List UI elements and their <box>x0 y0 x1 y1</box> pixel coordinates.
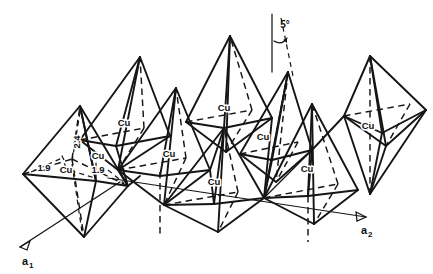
cu-label-2: Cu <box>118 117 131 128</box>
cu-label-1: Cu <box>92 150 105 161</box>
cu-label-4: Cu <box>218 102 231 113</box>
oct5-front-a <box>164 204 214 205</box>
octahedra-chain-svg: Cu Cu Cu Cu Cu Cu Cu Cu 1.9 1.9 2.4 Cu 5… <box>0 0 433 274</box>
bond-label-1-9-right: 1.9 <box>91 164 104 175</box>
axis-a2-subscript: 2 <box>368 230 373 239</box>
axis-a2-label: a <box>361 224 368 236</box>
bond-label-1-9-left: 1.9 <box>37 162 50 173</box>
cu-label-3: Cu <box>163 148 176 159</box>
cu-label-7: Cu <box>301 163 314 174</box>
cu-label-center-left: Cu <box>60 164 73 175</box>
cu-label-8: Cu <box>362 120 375 131</box>
axis-a1-label: a <box>22 255 29 267</box>
cu-label-5: Cu <box>208 176 221 187</box>
crystal-structure-figure: Cu Cu Cu Cu Cu Cu Cu Cu 1.9 1.9 2.4 Cu 5… <box>0 0 433 274</box>
tilt-angle-label: 5° <box>280 19 290 30</box>
cu-label-6: Cu <box>257 131 270 142</box>
bond-label-2-4-axial: 2.4 <box>71 135 82 149</box>
tilt-angle-label-group: 5° <box>280 19 290 30</box>
axis-a1-subscript: 1 <box>29 261 34 270</box>
